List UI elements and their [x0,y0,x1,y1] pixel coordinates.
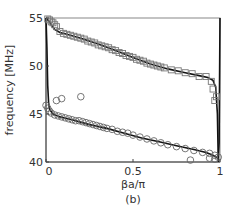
series-layer [43,16,222,163]
axis-ticks: 00.5140455055 [29,12,224,178]
x-axis-label: βa/π [121,178,145,191]
y-tick-label: 50 [29,60,43,73]
x-tick-label: 0.5 [124,165,142,178]
y-tick-label: 40 [29,156,43,169]
circle-marker [78,93,85,100]
x-tick-label: 0 [46,165,53,178]
panel-label: (b) [125,193,141,206]
chart: 00.5140455055 βa/π frequency [MHz] (b) [0,0,234,213]
x-tick-label: 1 [217,165,224,178]
y-axis-label: frequency [MHz] [3,45,16,136]
y-tick-label: 55 [29,12,43,25]
y-tick-label: 45 [29,108,43,121]
